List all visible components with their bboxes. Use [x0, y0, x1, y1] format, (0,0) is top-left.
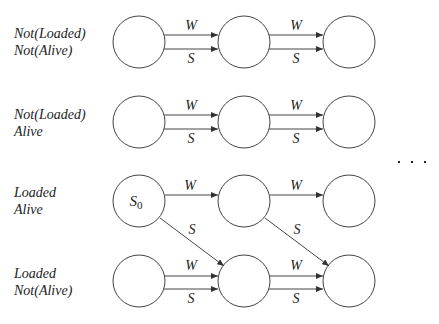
edge-label-s: S	[188, 51, 195, 66]
ellipsis-dot	[411, 161, 413, 163]
state-node	[218, 175, 270, 227]
state-diagram: W S W S W S W S W W S S W S W S S0	[0, 0, 439, 324]
edge-label-w: W	[290, 258, 303, 273]
edge-label-s: S	[293, 131, 300, 146]
state-node	[113, 255, 165, 307]
edge-label-s: S	[293, 51, 300, 66]
edge-label-w: W	[290, 18, 303, 33]
edge-label-s: S	[293, 291, 300, 306]
edge-label-s: S	[188, 291, 195, 306]
edge-label-w: W	[185, 18, 198, 33]
state-node	[323, 96, 375, 148]
edge-label-s: S	[294, 222, 301, 237]
state-node	[113, 96, 165, 148]
ellipsis-dot	[398, 161, 400, 163]
edge-label-w: W	[185, 258, 198, 273]
ellipsis-dot	[424, 161, 426, 163]
start-state-label: S0	[130, 193, 144, 211]
edge-label-w: W	[290, 178, 303, 193]
edge-label-s: S	[189, 222, 196, 237]
edge-label-w: W	[184, 178, 197, 193]
edge-label-s: S	[188, 131, 195, 146]
state-node	[218, 16, 270, 68]
edge-label-w: W	[185, 98, 198, 113]
state-node	[323, 16, 375, 68]
state-node	[323, 175, 375, 227]
state-node	[218, 255, 270, 307]
state-node	[113, 16, 165, 68]
edge-label-w: W	[290, 98, 303, 113]
state-node	[218, 96, 270, 148]
state-node	[323, 255, 375, 307]
